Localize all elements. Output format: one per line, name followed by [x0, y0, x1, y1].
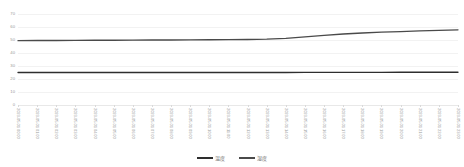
x-tick-mark — [75, 105, 76, 107]
x-tick-label: 2023-05-01 08:00 — [169, 108, 173, 139]
y-tick-label: 50 — [10, 38, 15, 42]
legend-label: 湿度 — [257, 156, 267, 161]
x-tick-label: 2023-05-01 18:00 — [360, 108, 364, 139]
y-tick-label: 60 — [10, 25, 15, 29]
series-lines — [18, 14, 458, 105]
x-tick-mark — [267, 105, 268, 107]
x-tick-mark — [95, 105, 96, 107]
legend-swatch-icon — [239, 157, 255, 159]
x-tick-mark — [286, 105, 287, 107]
y-tick-label: 70 — [10, 12, 15, 16]
x-tick-mark — [420, 105, 421, 107]
line-chart: 010203040506070 2023-05-01 00:002023-05-… — [0, 0, 464, 167]
x-tick-mark — [305, 105, 306, 107]
x-tick-label: 2023-05-01 20:00 — [398, 108, 402, 139]
y-tick-label: 10 — [10, 90, 15, 94]
x-tick-mark — [439, 105, 440, 107]
x-tick-mark — [228, 105, 229, 107]
x-tick-mark — [362, 105, 363, 107]
x-tick-label: 2023-05-01 14:00 — [284, 108, 288, 139]
x-tick-label: 2023-05-01 00:00 — [16, 108, 20, 139]
legend-item[interactable]: 温度 — [197, 156, 225, 161]
x-tick-mark — [133, 105, 134, 107]
x-tick-label: 2023-05-01 03:00 — [73, 108, 77, 139]
x-tick-mark — [381, 105, 382, 107]
x-tick-mark — [18, 105, 19, 107]
x-tick-label: 2023-05-01 16:00 — [322, 108, 326, 139]
x-tick-label: 2023-05-01 07:00 — [150, 108, 154, 139]
x-tick-label: 2023-05-01 12:00 — [245, 108, 249, 139]
y-tick-label: 30 — [10, 64, 15, 68]
y-tick-label: 40 — [10, 51, 15, 55]
x-tick-mark — [343, 105, 344, 107]
x-tick-label: 2023-05-01 22:00 — [437, 108, 441, 139]
series-line — [18, 30, 458, 41]
x-tick-label: 2023-05-01 10:00 — [207, 108, 211, 139]
x-tick-mark — [114, 105, 115, 107]
x-tick-mark — [458, 105, 459, 107]
x-tick-label: 2023-05-01 11:00 — [226, 108, 230, 138]
legend-item[interactable]: 湿度 — [239, 156, 267, 161]
x-tick-mark — [209, 105, 210, 107]
legend-swatch-icon — [197, 157, 213, 159]
x-tick-mark — [248, 105, 249, 107]
x-tick-mark — [56, 105, 57, 107]
x-tick-label: 2023-05-01 01:00 — [35, 108, 39, 139]
y-tick-label: 0 — [13, 103, 15, 107]
x-tick-label: 2023-05-01 21:00 — [418, 108, 422, 139]
x-tick-label: 2023-05-01 13:00 — [265, 108, 269, 139]
chart-legend: 温度湿度 — [0, 151, 464, 165]
x-tick-label: 2023-05-01 09:00 — [188, 108, 192, 139]
x-tick-label: 2023-05-01 04:00 — [92, 108, 96, 139]
x-tick-label: 2023-05-01 17:00 — [341, 108, 345, 139]
x-tick-label: 2023-05-01 23:00 — [456, 108, 460, 139]
x-tick-label: 2023-05-01 06:00 — [131, 108, 135, 139]
x-tick-mark — [401, 105, 402, 107]
y-tick-label: 20 — [10, 77, 15, 81]
x-tick-label: 2023-05-01 05:00 — [111, 108, 115, 139]
x-tick-label: 2023-05-01 15:00 — [303, 108, 307, 139]
x-axis: 2023-05-01 00:002023-05-01 01:002023-05-… — [18, 105, 458, 151]
plot-area: 010203040506070 — [18, 14, 458, 105]
x-tick-mark — [171, 105, 172, 107]
x-tick-mark — [190, 105, 191, 107]
x-tick-mark — [37, 105, 38, 107]
x-tick-mark — [152, 105, 153, 107]
x-tick-label: 2023-05-01 02:00 — [54, 108, 58, 139]
x-tick-mark — [324, 105, 325, 107]
x-tick-label: 2023-05-01 19:00 — [379, 108, 383, 139]
legend-label: 温度 — [215, 156, 225, 161]
